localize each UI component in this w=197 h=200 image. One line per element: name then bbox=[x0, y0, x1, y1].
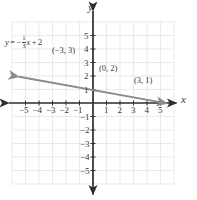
y-tick-label-neg4: −4 bbox=[80, 153, 90, 162]
point-label-3-1: (3, 1) bbox=[134, 76, 152, 85]
x-tick-label-neg5: −5 bbox=[19, 106, 29, 115]
y-tick-label-2: 2 bbox=[84, 72, 89, 81]
y-tick-label-5: 5 bbox=[84, 32, 89, 41]
x-tick-label-neg3: −3 bbox=[46, 106, 56, 115]
y-tick-label-neg1: −1 bbox=[80, 113, 90, 122]
x-tick-label-1: 1 bbox=[104, 106, 109, 115]
y-tick-label-1: 1 bbox=[84, 86, 89, 95]
x-tick-label-2: 2 bbox=[118, 106, 123, 115]
coordinate-plane bbox=[0, 0, 197, 200]
x-tick-label-neg2: −2 bbox=[60, 106, 70, 115]
y-tick-label-4: 4 bbox=[84, 45, 89, 54]
point-label-neg3-3: (−3, 3) bbox=[52, 46, 75, 55]
equation-constant: 2 bbox=[38, 37, 42, 47]
x-tick-label-3: 3 bbox=[131, 106, 136, 115]
x-axis-label: x bbox=[181, 94, 186, 105]
graph-figure: y x −5 −4 −3 −2 −1 1 2 3 4 5 5 4 3 2 1 −… bbox=[0, 0, 197, 200]
equation-minus: − bbox=[17, 37, 22, 47]
y-tick-label-3: 3 bbox=[84, 59, 89, 68]
x-tick-label-4: 4 bbox=[145, 106, 150, 115]
x-tick-label-neg4: −4 bbox=[33, 106, 43, 115]
equation-plus: + bbox=[32, 37, 37, 47]
y-tick-label-neg5: −5 bbox=[80, 167, 90, 176]
y-axis-label: y bbox=[88, 2, 93, 13]
point-label-0-2: (0, 2) bbox=[99, 64, 117, 73]
equation-lhs: y bbox=[5, 37, 9, 47]
equation-equals: = bbox=[10, 37, 15, 47]
equation-label: y=−13x+2 bbox=[5, 35, 42, 49]
x-tick-label-5: 5 bbox=[158, 106, 163, 115]
y-tick-label-neg3: −3 bbox=[80, 140, 90, 149]
y-tick-label-neg2: −2 bbox=[80, 126, 90, 135]
equation-variable: x bbox=[26, 37, 30, 47]
